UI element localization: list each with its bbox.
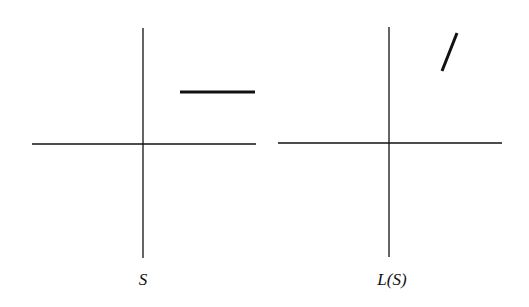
label-s: S bbox=[139, 270, 148, 290]
panel-ls bbox=[278, 27, 502, 257]
diagram-canvas bbox=[0, 0, 529, 307]
label-ls: L(S) bbox=[377, 270, 406, 290]
segment-ls bbox=[442, 33, 457, 71]
panel-s bbox=[32, 28, 256, 258]
